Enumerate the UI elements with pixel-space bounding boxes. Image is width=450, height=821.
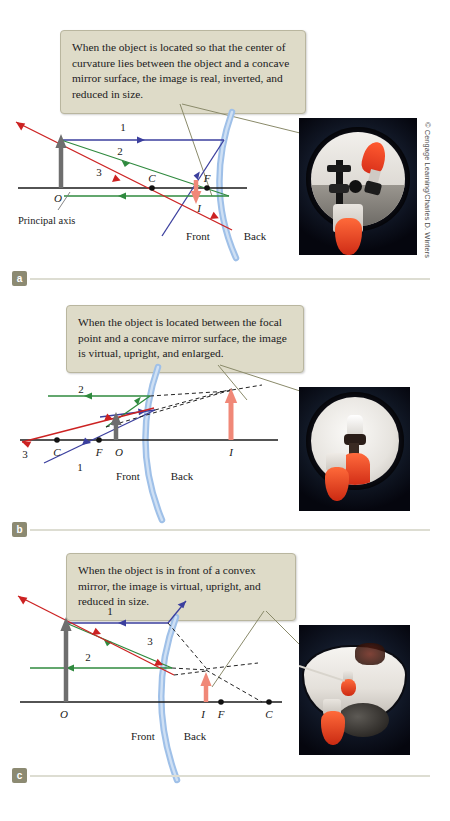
panel-a-point-F (204, 185, 210, 191)
panel-c-label-F: F (217, 708, 225, 720)
panel-c-point-F (218, 699, 224, 705)
panel-c-ray-label-1: 1 (107, 605, 113, 617)
panel-c-label-I: I (200, 708, 206, 720)
panel-a-label-front: Front (186, 230, 210, 242)
panel-a-label-F: F (203, 172, 211, 184)
panel-c-point-C (266, 699, 272, 705)
panel-b-ray-label-2: 2 (78, 383, 84, 395)
panel-a-concave-mirror (219, 112, 236, 258)
panel-b-ray-label-3: 3 (22, 448, 28, 460)
panel-c-label-C: C (265, 708, 273, 720)
panel-c-label-back: Back (184, 730, 207, 742)
panel-b-point-C (54, 437, 60, 443)
panel-b-concave-mirror (145, 367, 162, 520)
panel-b-point-F (96, 437, 102, 443)
panel-c-ray-1 (66, 601, 186, 627)
panel-c-photo (299, 625, 410, 755)
panel-c-ray-2 (30, 623, 172, 672)
panel-c-convex-mirror (161, 617, 177, 780)
panel-c-rule (30, 775, 430, 777)
panel-c-label-front: Front (131, 730, 155, 742)
panel-b-ray-label-1: 1 (77, 461, 83, 473)
panel-c-ray-label-3: 3 (147, 635, 153, 647)
panel-b: When the object is located between the f… (0, 295, 450, 535)
panel-a-ray-label-1: 1 (120, 121, 126, 133)
panel-a-photo (299, 118, 417, 255)
panel-a: When the object is located so that the c… (0, 0, 450, 295)
panel-b-image-arrow (225, 388, 237, 440)
panel-c: When the object is in front of a convex … (0, 535, 450, 821)
panel-a-ray-label-2: 2 (117, 145, 123, 157)
panel-a-label-O: O (54, 192, 62, 204)
panel-a-label-C: C (148, 172, 156, 184)
panel-c-image-arrow (200, 672, 211, 702)
figure-credit: © Cengage Learning/Charles D. Winters (423, 122, 432, 258)
panel-c-leader-lines (212, 611, 300, 687)
panel-b-photo (299, 387, 410, 511)
panel-a-label-back: Back (244, 230, 267, 242)
panel-a-tag: a (12, 271, 27, 286)
mirror-ray-diagram-figure: When the object is located so that the c… (0, 0, 450, 821)
panel-a-ray-diagram: 1 2 3 O C F I Principal axis Front Back (0, 0, 300, 295)
panel-a-ray-2 (61, 140, 229, 200)
panel-b-label-front: Front (116, 470, 140, 482)
panel-a-rule (30, 278, 430, 280)
panel-c-ray-diagram: 1 3 2 O I F C Front Back (0, 535, 300, 821)
panel-c-ray-label-2: 2 (85, 651, 91, 663)
panel-c-tag: c (12, 768, 27, 783)
panel-b-rule (30, 529, 430, 531)
panel-a-ray-label-3: 3 (96, 166, 102, 178)
panel-b-label-F: F (95, 446, 103, 458)
panel-c-object-arrow (60, 617, 71, 702)
panel-a-label-I: I (196, 202, 202, 214)
panel-b-label-back: Back (171, 470, 194, 482)
panel-a-principal-axis-label: Principal axis (18, 215, 75, 226)
panel-b-virtual-extensions (106, 385, 262, 427)
panel-b-label-C: C (53, 446, 61, 458)
panel-b-ray-diagram: 2 1 3 C F O I Front Back (0, 295, 300, 535)
panel-b-label-O: O (115, 446, 123, 458)
panel-b-label-I: I (228, 446, 234, 458)
panel-a-point-C (149, 185, 155, 191)
panel-c-label-O: O (60, 708, 68, 720)
